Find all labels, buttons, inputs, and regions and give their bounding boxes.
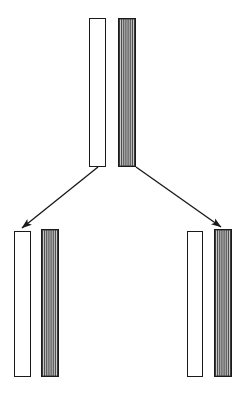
node-child-right	[188, 230, 232, 377]
white-bar-rect	[15, 232, 31, 377]
node-parent	[90, 19, 136, 167]
node-child-left	[15, 230, 59, 377]
bar-child-right-white-bar	[188, 232, 203, 377]
edges-layer	[22, 167, 221, 228]
white-bar-rect	[90, 19, 106, 167]
diagram-canvas	[0, 0, 244, 395]
edge-parent-to-right-child	[136, 167, 221, 227]
nodes-layer	[15, 19, 232, 377]
white-bar-rect	[188, 232, 203, 377]
bar-child-right-hatched-bar	[215, 230, 232, 377]
edge-parent-to-left-child	[22, 167, 98, 228]
bar-parent-white-bar	[90, 19, 106, 167]
diagram-svg	[0, 0, 244, 395]
bar-child-left-hatched-bar	[42, 230, 59, 377]
bar-child-left-white-bar	[15, 232, 31, 377]
bar-parent-hatched-bar	[119, 19, 136, 167]
